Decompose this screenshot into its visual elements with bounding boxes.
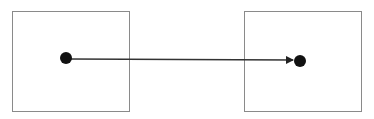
right-dot <box>294 55 306 67</box>
diagram-canvas <box>0 0 374 119</box>
arrow-connector <box>70 59 293 60</box>
left-box <box>13 12 130 112</box>
left-dot <box>60 52 72 64</box>
